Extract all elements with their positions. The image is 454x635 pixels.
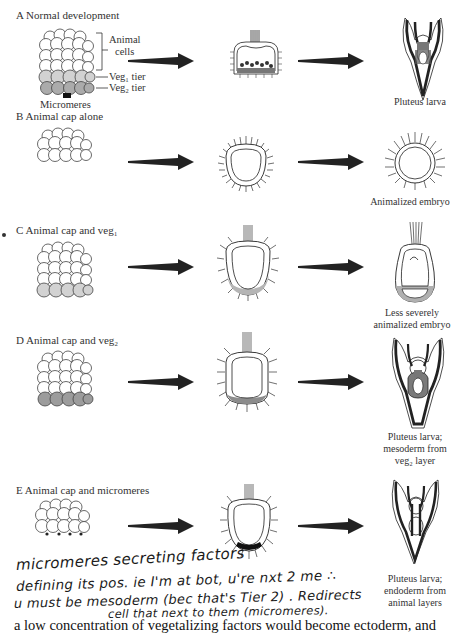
panel-a-embryo-cells xyxy=(38,30,98,102)
panel-e-embryo-cells xyxy=(34,500,94,542)
panel-a-label: A Normal development xyxy=(16,9,119,21)
arrow-icon xyxy=(298,154,364,170)
panel-b-animal-cap-cells xyxy=(36,129,96,165)
panel-c-label: C Animal cap and veg₁ xyxy=(16,224,118,236)
arrow-icon xyxy=(298,259,364,275)
panel-e-pluteus-larva xyxy=(386,474,446,568)
panel-e-result-caption-line2: endoderm from xyxy=(376,585,454,597)
panel-b-label: B Animal cap alone xyxy=(16,110,103,122)
panel-d-pluteus-larva xyxy=(386,332,450,434)
arrow-icon xyxy=(128,53,194,69)
panel-e-label: E Animal cap and micromeres xyxy=(16,484,149,496)
veg2-tier-label: Veg₂ tier xyxy=(109,82,146,94)
panel-d-label: D Animal cap and veg₂ xyxy=(16,334,118,346)
panel-d-embryo-cells xyxy=(36,352,96,410)
animal-cells-label-line1: Animal xyxy=(109,34,141,46)
arrow-icon xyxy=(128,518,194,534)
panel-d-result-caption-line3: veg₂ layer xyxy=(376,455,454,467)
panel-e-result-caption-line3: animal layers xyxy=(376,597,454,609)
handwritten-note-line1: micromeres secreting factors xyxy=(16,544,246,574)
panel-d-gastrula xyxy=(214,332,280,416)
arrow-icon xyxy=(298,53,364,69)
arrow-icon xyxy=(298,518,364,534)
panel-a-pluteus-larva xyxy=(395,12,451,104)
margin-mark xyxy=(2,233,6,237)
panel-c-gastrula xyxy=(216,225,280,305)
panel-b-result-caption: Animalized embryo xyxy=(366,196,454,208)
panel-a-gastrula xyxy=(228,28,284,80)
arrow-icon xyxy=(128,154,194,170)
panel-b-animalized-embryo xyxy=(380,130,450,194)
panel-c-result-caption-line1: Less severely xyxy=(370,307,454,319)
arrow-icon xyxy=(128,374,194,390)
arrow-icon xyxy=(128,259,194,275)
panel-d-result-caption-line2: mesoderm from xyxy=(376,443,454,455)
panel-a-result-caption: Pluteus larva xyxy=(386,96,454,108)
panel-e-result-caption-line1: Pluteus larva; xyxy=(376,573,454,585)
panel-c-less-animalized-embryo xyxy=(390,222,440,306)
panel-c-result-caption-line2: animalized embryo xyxy=(370,319,454,331)
arrow-icon xyxy=(298,374,364,390)
panel-d-result-caption-line1: Pluteus larva; xyxy=(376,431,454,443)
panel-c-embryo-cells xyxy=(36,243,96,301)
panel-b-ciliated-blastula xyxy=(214,132,278,196)
body-text-line: a low concentration of vegetalizing fact… xyxy=(14,617,436,634)
